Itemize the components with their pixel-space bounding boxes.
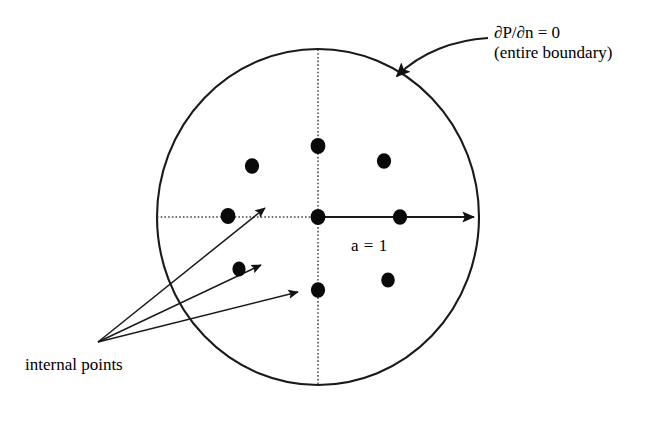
internal-point-dot: [311, 282, 325, 298]
radius-label: a = 1: [351, 236, 388, 256]
boundary-condition-label: ∂P/∂n = 0 (entire boundary): [494, 23, 612, 63]
internal-point-dot: [221, 208, 236, 224]
internal-point-dot: [393, 209, 407, 225]
internal-points-label: internal points: [25, 355, 123, 375]
internal-point-dot: [311, 138, 326, 154]
internal-point-dot: [311, 209, 326, 225]
internal-point-dot: [381, 272, 395, 287]
internal-point-dot: [245, 158, 259, 174]
internal-point-dot: [377, 153, 391, 169]
figure-container: ∂P/∂n = 0 (entire boundary) a = 1 intern…: [0, 0, 664, 426]
boundary-condition-line1: ∂P/∂n = 0: [494, 23, 560, 42]
boundary-annotation-arrow: [397, 38, 488, 76]
boundary-condition-line2: (entire boundary): [494, 43, 612, 63]
internal-point-dot: [232, 262, 245, 277]
